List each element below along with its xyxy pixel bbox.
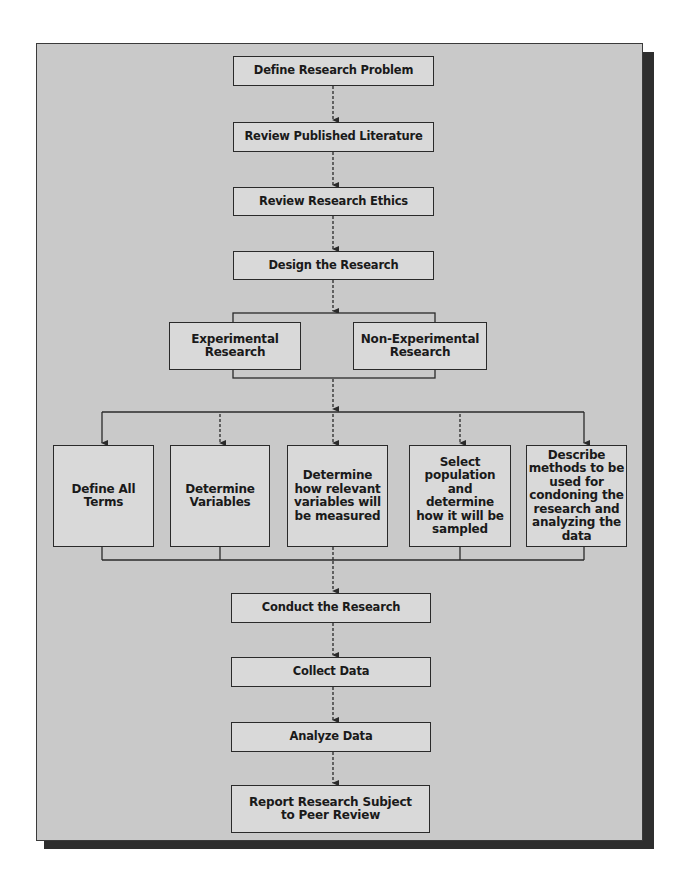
design-type-label: Experimental Research xyxy=(184,333,286,360)
task-select-population: Select population and determine how it w… xyxy=(409,445,511,547)
step-review-published-literature: Review Published Literature xyxy=(233,122,434,152)
step-collect-data: Collect Data xyxy=(231,657,431,687)
step-label: Analyze Data xyxy=(290,730,373,744)
step-report-peer-review: Report Research Subject to Peer Review xyxy=(231,785,430,833)
design-type-experimental: Experimental Research xyxy=(169,322,301,370)
design-type-non-experimental: Non-Experimental Research xyxy=(353,322,487,370)
task-describe-methods: Describe methods to be used for condonin… xyxy=(526,445,627,547)
step-label: Define Research Problem xyxy=(254,64,413,78)
step-design-the-research: Design the Research xyxy=(233,251,434,280)
step-label: Review Published Literature xyxy=(244,130,422,144)
task-label: Describe methods to be used for condonin… xyxy=(528,449,625,544)
step-label: Collect Data xyxy=(293,665,370,679)
step-label: Design the Research xyxy=(269,259,399,273)
task-label: Select population and determine how it w… xyxy=(414,456,506,537)
design-type-label: Non-Experimental Research xyxy=(356,333,484,360)
step-conduct-research: Conduct the Research xyxy=(231,593,431,623)
step-analyze-data: Analyze Data xyxy=(231,722,431,752)
step-review-research-ethics: Review Research Ethics xyxy=(233,187,434,216)
task-measure-variables: Determine how relevant variables will be… xyxy=(287,445,388,547)
task-label: Determine Variables xyxy=(179,483,261,510)
step-label: Review Research Ethics xyxy=(259,195,408,209)
task-label: Determine how relevant variables will be… xyxy=(294,469,381,523)
step-define-research-problem: Define Research Problem xyxy=(233,56,434,86)
task-define-all-terms: Define All Terms xyxy=(53,445,154,547)
step-label: Conduct the Research xyxy=(262,601,401,615)
task-determine-variables: Determine Variables xyxy=(170,445,270,547)
task-label: Define All Terms xyxy=(66,483,141,510)
step-label: Report Research Subject to Peer Review xyxy=(246,796,415,823)
